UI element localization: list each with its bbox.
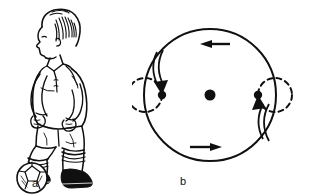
bottom-arrow — [190, 143, 222, 151]
figure-root: a — [0, 0, 317, 196]
player-arms — [31, 74, 83, 121]
circular-path-diagram — [132, 0, 317, 196]
panel-a-caption: a — [32, 178, 38, 189]
center-dot — [205, 90, 216, 101]
top-arrow — [200, 40, 230, 48]
panel-b-caption: b — [180, 176, 186, 187]
player-shorts — [36, 126, 84, 151]
left-curved-arrow — [153, 50, 168, 95]
right-curved-arrow — [252, 95, 269, 141]
panel-b: b — [132, 0, 317, 196]
player-head — [37, 9, 80, 59]
soccer-player-illustration — [0, 0, 140, 196]
player-torso — [33, 66, 87, 129]
player-hair-shading — [50, 10, 76, 40]
panel-a: a — [0, 0, 140, 196]
